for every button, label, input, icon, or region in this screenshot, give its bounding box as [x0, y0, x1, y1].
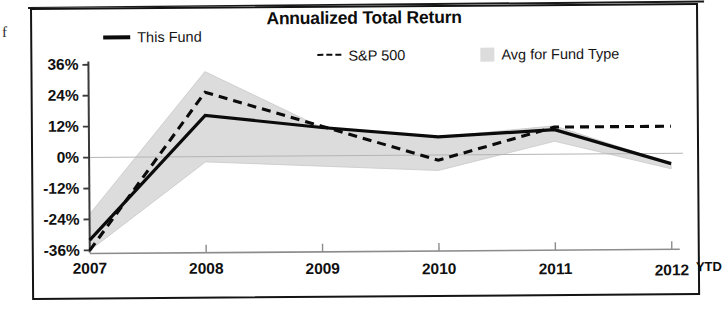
legend-label-this-fund: This Fund: [137, 29, 202, 45]
legend-item-this-fund: This Fund: [103, 29, 202, 46]
y-axis-tick-label: -36%: [44, 241, 80, 259]
dashed-line-icon: [317, 54, 341, 56]
chart-container: Annualized Total Return This Fund S&P 50…: [30, 3, 700, 300]
x-axis-tick-label: 2012: [655, 261, 690, 279]
y-axis-tick-label: 0%: [57, 149, 80, 167]
y-axis-tick-label: 12%: [48, 118, 79, 136]
x-axis-ytd-label: YTD: [696, 259, 722, 274]
y-axis-labels: 36%24%12%0%-12%-24%-36%: [30, 60, 79, 256]
y-axis-tick-label: 36%: [47, 56, 78, 74]
x-axis-tick-label: 2011: [539, 260, 573, 278]
y-axis-tick-label: 24%: [48, 87, 79, 105]
plot-area: [82, 55, 683, 255]
y-axis-tick-label: -24%: [43, 211, 79, 229]
chart-title: Annualized Total Return: [30, 5, 698, 31]
y-axis-line: [88, 62, 89, 253]
x-axis-tick-label: 2008: [189, 260, 224, 278]
stray-character-artifact: f: [2, 24, 7, 41]
y-axis-tick-label: -12%: [43, 180, 79, 198]
x-axis-line: [90, 249, 680, 253]
x-axis-tick-label: 2007: [73, 259, 108, 277]
x-axis-labels: YTD 200720082009201020112012: [84, 255, 704, 286]
x-axis-tick-label: 2009: [305, 260, 340, 278]
solid-line-icon: [103, 36, 130, 39]
avg-fund-type-band: [88, 68, 671, 250]
x-axis-tick-label: 2010: [422, 260, 457, 278]
chart-plot-svg: [82, 55, 683, 255]
